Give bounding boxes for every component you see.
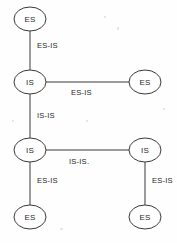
edge-label-is-upper-to-is-lower: IS-IS: [37, 111, 55, 120]
node-label: ES: [139, 78, 150, 87]
node-es-bottom-left[interactable]: ES: [14, 205, 46, 229]
node-es-upper-right[interactable]: ES: [129, 70, 161, 94]
edge-label-is-lower-to-is-right: IS-IS.: [69, 157, 89, 166]
node-label: ES: [24, 15, 35, 24]
edge-label-is-lower-to-es-bottom: ES-IS: [37, 176, 58, 185]
network-diagram: ES IS ES IS IS ES: [0, 0, 177, 243]
edge-label-es-top-to-is-upper: ES-IS: [37, 41, 58, 50]
node-is-lower-left[interactable]: IS: [14, 138, 46, 162]
node-label: IS: [26, 146, 34, 155]
node-es-bottom-right[interactable]: ES: [129, 205, 161, 229]
node-label: ES: [24, 213, 35, 222]
diagram-canvas: ES IS ES IS IS ES: [0, 0, 177, 243]
edge-label-is-right-to-es-bottom-right: ES-IS: [152, 176, 173, 185]
edge-label-is-upper-to-es-right: ES-IS: [71, 88, 92, 97]
node-es-top-left[interactable]: ES: [14, 7, 46, 31]
node-is-upper-left[interactable]: IS: [14, 70, 46, 94]
node-label: IS: [141, 146, 149, 155]
scan-noise: [12, 16, 165, 230]
edge-label-layer: ES-IS ES-IS IS-IS IS-IS. ES-IS ES-IS: [37, 41, 173, 185]
node-is-lower-right[interactable]: IS: [129, 138, 161, 162]
node-label: IS: [26, 78, 34, 87]
node-label: ES: [139, 213, 150, 222]
